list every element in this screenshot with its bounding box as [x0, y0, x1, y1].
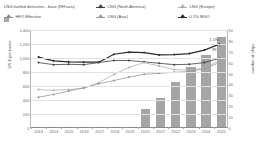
legend-line-icon — [96, 15, 105, 19]
y2-axis-tick-label: 80 — [229, 38, 233, 43]
data-point-marker — [143, 73, 146, 76]
data-point-marker — [83, 61, 86, 64]
x-axis-tick-mark — [199, 127, 200, 129]
y2-axis-tick-label: 20 — [229, 104, 233, 109]
y-axis-tick-label: 1,200 — [19, 42, 29, 47]
x-axis-tick-label: 2020 — [141, 129, 150, 134]
x-axis-tick-mark — [153, 127, 154, 129]
x-axis-tick-mark — [46, 127, 47, 129]
x-axis-tick-mark — [92, 127, 93, 129]
data-point-marker — [188, 63, 191, 66]
legend-label: LNG (Asia) — [108, 12, 128, 22]
data-point-marker — [52, 93, 55, 96]
y2-axis-tick-label: 40 — [229, 82, 233, 87]
legend-label: LNG (North America) — [108, 2, 146, 12]
y-axis-tick-label: 200 — [23, 112, 30, 117]
data-point-marker — [37, 96, 40, 99]
x-axis-tick-mark — [107, 127, 108, 129]
y-axis-left-title: US $ per tonne — [7, 31, 12, 79]
legend-line-icon — [178, 5, 187, 9]
x-axis-tick-label: 2018 — [110, 129, 119, 134]
legend-line-icon — [178, 15, 187, 19]
x-axis-tick-mark — [138, 127, 139, 129]
data-point-marker — [52, 63, 55, 66]
x-axis-tick-mark — [168, 127, 169, 129]
data-point-marker — [52, 60, 55, 63]
data-point-marker — [173, 68, 176, 71]
y-axis-right-title: number of ships — [250, 34, 255, 84]
legend-label: LNG-fuelled deliveries - base (RH axis) — [4, 2, 75, 12]
x-axis-tick-mark — [214, 127, 215, 129]
data-label: 1,195 — [209, 37, 219, 42]
x-axis-tick-label: 2016 — [80, 129, 89, 134]
data-label: 83 — [212, 47, 216, 52]
y2-axis-tick-label: 10 — [229, 115, 233, 120]
x-axis-tick-label: 2024 — [202, 129, 211, 134]
legend-item[interactable]: HFO Effective — [4, 12, 96, 22]
y2-axis-tick-label: 90 — [229, 28, 233, 33]
chart-legend: LNG-fuelled deliveries - base (RH axis)L… — [4, 2, 256, 22]
x-axis-tick-label: 2015 — [65, 129, 74, 134]
data-point-marker — [37, 61, 40, 64]
x-axis-tick-mark — [183, 127, 184, 129]
y-axis-tick-label: 1,000 — [19, 56, 29, 61]
x-axis-tick-label: 2021 — [156, 129, 165, 134]
plot-area: 02004006008001,0001,2001,400010203040506… — [30, 30, 228, 128]
x-axis-tick-label: 2014 — [49, 129, 58, 134]
gridline — [31, 30, 227, 31]
gridline — [31, 72, 227, 73]
legend-item[interactable]: LNG (North America) — [96, 2, 178, 12]
data-point-marker — [218, 61, 221, 64]
y-axis-tick-label: 0 — [27, 126, 29, 131]
gridline — [31, 100, 227, 101]
y2-axis-tick-label: 60 — [229, 60, 233, 65]
data-point-marker — [143, 51, 146, 54]
data-point-marker — [158, 62, 161, 65]
y-axis-tick-label: 600 — [23, 84, 30, 89]
data-point-marker — [67, 90, 70, 93]
x-axis-tick-label: 2017 — [95, 129, 104, 134]
data-point-marker — [67, 63, 70, 66]
y-axis-tick-label: 400 — [23, 98, 30, 103]
data-point-marker — [52, 89, 55, 92]
legend-item[interactable]: LNG-fuelled deliveries - base (RH axis) — [4, 2, 96, 12]
data-point-marker — [173, 63, 176, 66]
x-axis-tick-label: 2013 — [34, 129, 43, 134]
gridline — [31, 86, 227, 87]
legend-label: 0.1% MGO — [190, 12, 210, 22]
y2-axis-tick-label: 0 — [229, 126, 231, 131]
x-axis-tick-mark — [31, 127, 32, 129]
data-point-marker — [113, 79, 116, 82]
data-point-marker — [128, 59, 131, 62]
x-axis-tick-mark — [61, 127, 62, 129]
legend-item[interactable]: 0.1% MGO — [178, 12, 254, 22]
x-axis-tick-label: 2025 — [217, 129, 226, 134]
data-point-marker — [128, 51, 131, 54]
data-point-marker — [188, 52, 191, 55]
x-axis-tick-mark — [77, 127, 78, 129]
legend-item[interactable]: LNG (Europe) — [178, 2, 254, 12]
data-point-marker — [173, 53, 176, 56]
data-point-marker — [158, 54, 161, 57]
x-axis-tick-label: 2022 — [171, 129, 180, 134]
data-point-marker — [158, 65, 161, 68]
legend-label: LNG (Europe) — [190, 2, 215, 12]
data-point-marker — [37, 88, 40, 91]
legend-label: HFO Effective — [16, 12, 41, 22]
y2-axis-tick-label: 50 — [229, 71, 233, 76]
legend-item[interactable]: LNG (Asia) — [96, 12, 178, 22]
data-point-marker — [113, 59, 116, 62]
data-point-marker — [203, 61, 206, 64]
data-point-marker — [128, 66, 131, 69]
gridline — [31, 114, 227, 115]
y-axis-tick-label: 1,400 — [19, 28, 29, 33]
data-point-marker — [67, 61, 70, 64]
gridline — [31, 44, 227, 45]
legend-line-icon — [4, 15, 13, 19]
x-axis-tick-label: 2019 — [126, 129, 135, 134]
data-point-marker — [83, 63, 86, 66]
gridline — [31, 58, 227, 59]
y2-axis-tick-label: 70 — [229, 49, 233, 54]
legend-line-icon — [96, 5, 105, 9]
y2-axis-tick-label: 30 — [229, 93, 233, 98]
